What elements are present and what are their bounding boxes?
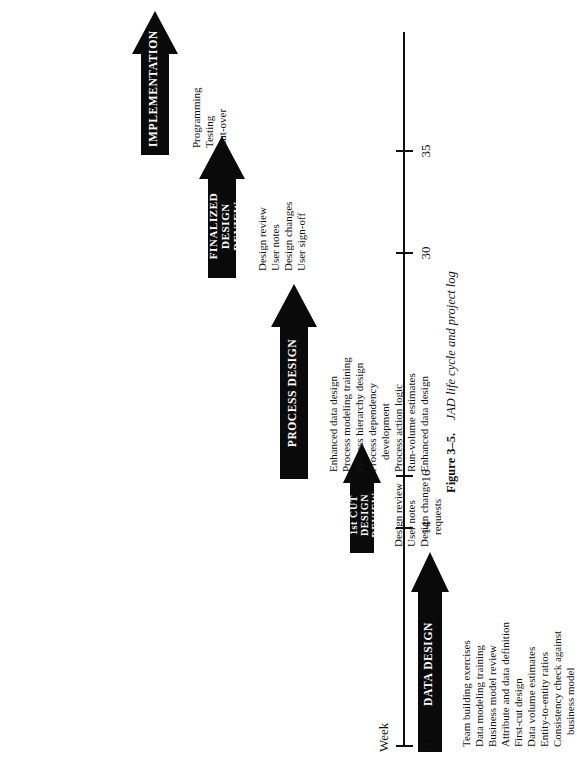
task-item: Data modeling training bbox=[473, 622, 486, 747]
axis-tick-label-16: 16 bbox=[418, 462, 434, 490]
axis-name-week: Week bbox=[376, 723, 392, 752]
axis-tick-16 bbox=[396, 475, 413, 477]
task-item: Consistency check against bbox=[551, 622, 564, 747]
figure-caption: Figure 3–5. JAD life cycle and project l… bbox=[444, 271, 459, 493]
axis-tick-30 bbox=[396, 252, 413, 254]
task-item: Attribute and data definition bbox=[499, 622, 512, 747]
caption-text: JAD life cycle and project log bbox=[444, 271, 458, 420]
axis-tick-label-30: 30 bbox=[418, 239, 434, 267]
axis-tick-label-0: 0 bbox=[418, 732, 434, 760]
task-list-data-design: Team building exercises Data modeling tr… bbox=[460, 622, 577, 747]
task-item: business model bbox=[564, 622, 577, 747]
caption-number: Figure 3–5. bbox=[444, 433, 458, 493]
task-item: Data volume estimates bbox=[525, 622, 538, 747]
axis-line bbox=[403, 32, 405, 747]
axis-tick-0 bbox=[396, 745, 413, 747]
axis-tick-label-14: 14 bbox=[418, 514, 434, 542]
axis-tick-14 bbox=[396, 527, 413, 529]
task-item: Business model review bbox=[486, 622, 499, 747]
axis-tick-label-35: 35 bbox=[418, 137, 434, 165]
task-item: Entity-to-entity ratios bbox=[538, 622, 551, 747]
task-item: First-cut design bbox=[512, 622, 525, 747]
axis-tick-35 bbox=[396, 150, 413, 152]
